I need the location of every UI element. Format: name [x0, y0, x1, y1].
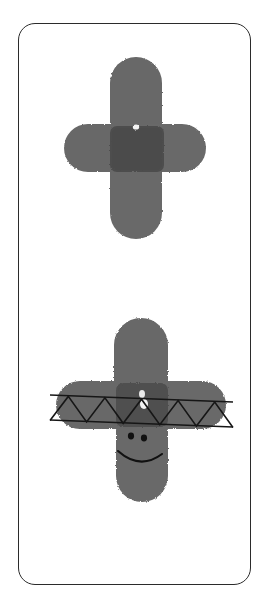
page-title: Fingerprint Cross Figures: [0, 0, 1, 1]
illustration-page: Fingerprint Cross Figures: [0, 0, 278, 602]
card-frame: [18, 23, 251, 585]
